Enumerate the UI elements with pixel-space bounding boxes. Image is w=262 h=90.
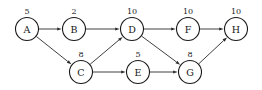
node-weight-f: 10 [183, 7, 193, 16]
node-weight-a: 5 [24, 7, 29, 16]
arrow-head-icon [115, 27, 120, 30]
node-weight-b: 2 [71, 7, 76, 16]
edge-d-to-g [142, 36, 180, 65]
edge-a-to-b [39, 27, 62, 30]
node-weight-c: 8 [78, 50, 83, 59]
edge-a-to-c [36, 36, 71, 64]
edge-e-to-g [150, 70, 178, 73]
edge-d-to-f [144, 27, 176, 30]
node-e[interactable]: 5E [127, 50, 150, 84]
node-weight-h: 10 [231, 7, 241, 16]
node-label-b: B [71, 24, 78, 35]
arrow-head-icon [219, 27, 224, 30]
edge-c-to-d [90, 37, 122, 64]
node-a[interactable]: 5A [16, 7, 39, 41]
edge-line [36, 36, 67, 61]
arrow-head-icon [173, 70, 178, 73]
arrow-head-icon [57, 27, 62, 30]
node-label-c: C [77, 67, 84, 78]
node-label-g: G [186, 67, 194, 78]
arrow-head-icon [171, 27, 176, 30]
node-g[interactable]: 8G [179, 50, 202, 84]
edge-line [199, 41, 224, 64]
node-label-f: F [185, 24, 192, 35]
edge-b-to-d [86, 27, 120, 30]
graph-canvas: 5A2B10D10F10H8C5E8G [0, 0, 262, 90]
edge-f-to-h [200, 27, 224, 30]
node-f[interactable]: 10F [177, 7, 200, 41]
edge-c-to-e [93, 70, 126, 73]
node-label-a: A [23, 24, 31, 35]
edge-line [90, 40, 119, 64]
arrow-head-icon [121, 70, 126, 73]
node-label-d: D [128, 24, 136, 35]
node-label-h: H [232, 24, 240, 35]
edge-g-to-h [199, 37, 227, 63]
node-weight-g: 8 [187, 50, 192, 59]
node-h[interactable]: 10H [225, 7, 248, 41]
edge-line [142, 36, 177, 62]
nodes-layer: 5A2B10D10F10H8C5E8G [16, 7, 248, 84]
node-b[interactable]: 2B [63, 7, 86, 41]
node-d[interactable]: 10D [121, 7, 144, 41]
node-weight-d: 10 [127, 7, 137, 16]
node-weight-e: 5 [135, 50, 140, 59]
graph-diagram: 5A2B10D10F10H8C5E8G [0, 0, 262, 90]
node-c[interactable]: 8C [70, 50, 93, 84]
node-label-e: E [135, 67, 142, 78]
